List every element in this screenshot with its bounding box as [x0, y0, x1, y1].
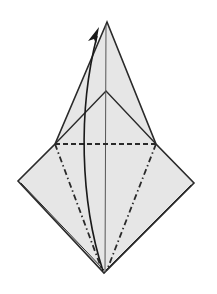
origami-diagram: [0, 0, 217, 294]
arrowhead-icon: [88, 27, 99, 44]
